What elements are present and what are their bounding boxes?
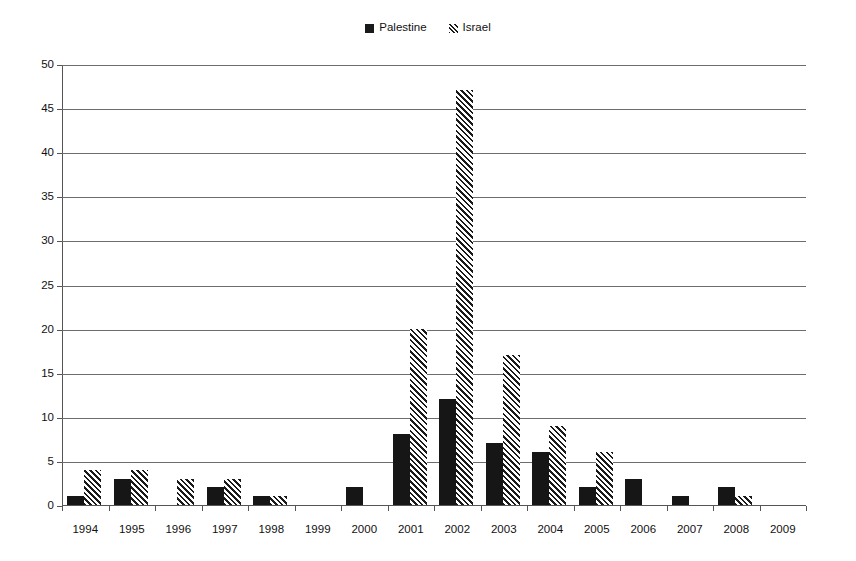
bar-group bbox=[434, 65, 481, 505]
y-axis-tick-label: 25 bbox=[41, 280, 54, 292]
x-axis-tick bbox=[434, 506, 435, 511]
bar-group bbox=[574, 65, 621, 505]
x-axis-tick bbox=[760, 506, 761, 511]
x-axis-tick-label: 2003 bbox=[491, 524, 517, 536]
bar bbox=[579, 487, 596, 505]
chart-legend: Palestine Israel bbox=[0, 18, 856, 38]
y-axis-tick-label: 10 bbox=[41, 412, 54, 424]
x-axis-tick-label: 2005 bbox=[584, 524, 610, 536]
x-axis-tick bbox=[527, 506, 528, 511]
bar bbox=[393, 434, 410, 505]
x-axis-tick-label: 2006 bbox=[630, 524, 656, 536]
diagonal-hatch-square-icon bbox=[449, 24, 458, 33]
y-axis-tick-label: 0 bbox=[48, 500, 54, 512]
x-axis-tick-label: 2002 bbox=[444, 524, 470, 536]
bar-group bbox=[341, 65, 388, 505]
x-axis-tick bbox=[481, 506, 482, 511]
bar-group bbox=[667, 65, 714, 505]
x-axis-tick bbox=[620, 506, 621, 511]
bar bbox=[84, 470, 101, 505]
legend-entry-israel: Israel bbox=[449, 22, 491, 34]
bar bbox=[486, 443, 503, 505]
bar-group bbox=[481, 65, 528, 505]
x-axis-tick-label: 1995 bbox=[119, 524, 145, 536]
x-axis-tick bbox=[295, 506, 296, 511]
bar bbox=[67, 496, 84, 505]
bar bbox=[456, 90, 473, 505]
x-axis-tick bbox=[667, 506, 668, 511]
x-axis-tick-label: 1996 bbox=[165, 524, 191, 536]
bar-group bbox=[202, 65, 249, 505]
y-axis-tick-label: 30 bbox=[41, 236, 54, 248]
x-axis-tick-label: 2009 bbox=[770, 524, 796, 536]
x-axis-tick bbox=[248, 506, 249, 511]
x-axis-tick bbox=[202, 506, 203, 511]
bar bbox=[718, 487, 735, 505]
x-axis-tick-label: 2001 bbox=[398, 524, 424, 536]
legend-label-palestine: Palestine bbox=[379, 22, 426, 34]
bars-layer bbox=[62, 65, 806, 506]
bar-group bbox=[62, 65, 109, 505]
bar-group bbox=[620, 65, 667, 505]
bar bbox=[735, 496, 752, 505]
x-axis-tick bbox=[109, 506, 110, 511]
bar bbox=[439, 399, 456, 505]
bar bbox=[114, 479, 131, 505]
bar bbox=[672, 496, 689, 505]
bar bbox=[131, 470, 148, 505]
bar bbox=[410, 329, 427, 505]
bar bbox=[224, 479, 241, 505]
bar bbox=[503, 355, 520, 505]
x-axis-tick-label: 2007 bbox=[677, 524, 703, 536]
bar-group bbox=[109, 65, 156, 505]
x-axis-tick-label: 2000 bbox=[351, 524, 377, 536]
bar-group bbox=[527, 65, 574, 505]
bar-group bbox=[713, 65, 760, 505]
y-axis-tick-label: 40 bbox=[41, 147, 54, 159]
x-axis-tick-label: 2004 bbox=[537, 524, 563, 536]
bar-group bbox=[248, 65, 295, 505]
x-axis-tick bbox=[713, 506, 714, 511]
x-axis-tick bbox=[62, 506, 63, 511]
bar bbox=[625, 479, 642, 505]
y-axis-tick-label: 45 bbox=[41, 103, 54, 115]
x-axis-tick-label: 1994 bbox=[72, 524, 98, 536]
bar-group bbox=[295, 65, 342, 505]
y-axis-tick-label: 50 bbox=[41, 59, 54, 71]
bar-chart: Palestine Israel 05101520253035404550 19… bbox=[0, 0, 856, 561]
x-axis: 1994199519961997199819992000200120022003… bbox=[62, 506, 806, 556]
solid-square-icon bbox=[365, 24, 374, 33]
bar bbox=[207, 487, 224, 505]
bar bbox=[549, 426, 566, 505]
x-axis-tick bbox=[155, 506, 156, 511]
x-axis-tick-label: 1997 bbox=[212, 524, 238, 536]
x-axis-tick-label: 2008 bbox=[723, 524, 749, 536]
y-axis-tick-label: 5 bbox=[48, 456, 54, 468]
y-axis-tick-label: 35 bbox=[41, 192, 54, 204]
y-axis-tick-label: 15 bbox=[41, 368, 54, 380]
legend-label-israel: Israel bbox=[463, 22, 491, 34]
legend-entry-palestine: Palestine bbox=[365, 22, 426, 34]
x-axis-tick-label: 1998 bbox=[258, 524, 284, 536]
plot-area: 05101520253035404550 bbox=[62, 65, 806, 506]
x-axis-tick bbox=[388, 506, 389, 511]
bar-group bbox=[388, 65, 435, 505]
bar-group bbox=[155, 65, 202, 505]
bar bbox=[346, 487, 363, 505]
bar bbox=[270, 496, 287, 505]
x-axis-tick bbox=[806, 506, 807, 511]
bar-group bbox=[760, 65, 807, 505]
bar bbox=[253, 496, 270, 505]
bar bbox=[596, 452, 613, 505]
y-axis-tick-label: 20 bbox=[41, 324, 54, 336]
x-axis-tick-label: 1999 bbox=[305, 524, 331, 536]
x-axis-tick bbox=[574, 506, 575, 511]
bar bbox=[177, 479, 194, 505]
bar bbox=[532, 452, 549, 505]
x-axis-tick bbox=[341, 506, 342, 511]
